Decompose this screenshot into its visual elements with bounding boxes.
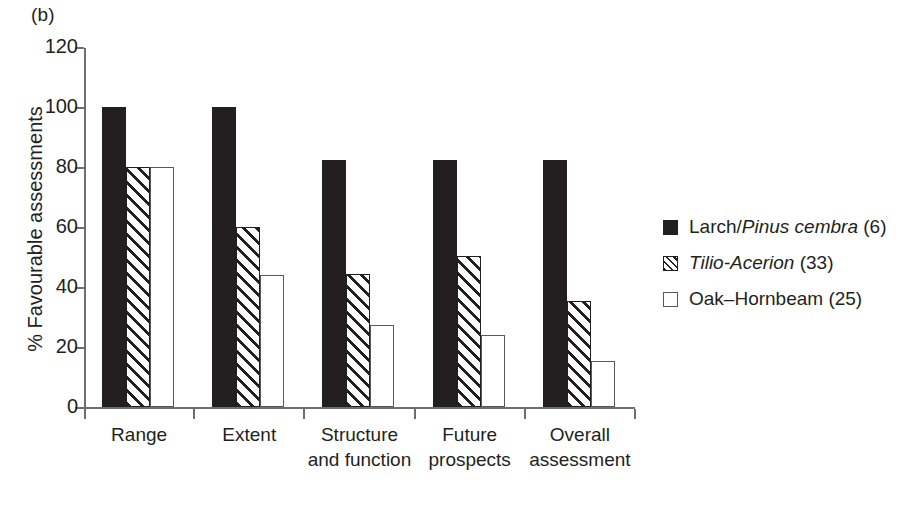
bar bbox=[150, 167, 174, 407]
y-tick-label: 100 bbox=[45, 95, 78, 117]
legend-label: Larch/Pinus cembra (6) bbox=[689, 216, 886, 238]
y-tick-label: 120 bbox=[45, 35, 78, 57]
x-axis-category-line: Overall bbox=[515, 422, 645, 447]
y-tick-label: 20 bbox=[56, 335, 78, 357]
legend-label: Oak–Hornbeam (25) bbox=[689, 288, 862, 310]
bar bbox=[591, 361, 615, 408]
legend-swatch-hatched bbox=[663, 256, 678, 271]
x-tick-mark bbox=[414, 409, 416, 419]
y-axis-title: % Favourable assessments bbox=[24, 19, 46, 439]
bar bbox=[236, 227, 260, 407]
x-tick-mark bbox=[634, 409, 636, 419]
plot-area: 020406080100120 RangeExtentStructureand … bbox=[84, 48, 635, 408]
legend-label-italic: Pinus cembra bbox=[742, 216, 858, 237]
x-axis-category-label: Overallassessment bbox=[515, 422, 645, 472]
x-tick-mark bbox=[303, 409, 305, 419]
bar bbox=[102, 107, 126, 407]
bar bbox=[457, 256, 481, 408]
y-tick-label: 40 bbox=[56, 275, 78, 297]
bar bbox=[322, 160, 346, 408]
bar bbox=[260, 275, 284, 407]
legend-item: Oak–Hornbeam (25) bbox=[663, 281, 903, 317]
y-tick-label: 0 bbox=[67, 395, 78, 417]
bar bbox=[481, 335, 505, 407]
bar bbox=[126, 167, 150, 407]
figure-panel-b: (b) 020406080100120 RangeExtentStructure… bbox=[0, 0, 905, 509]
bar-group bbox=[84, 47, 194, 407]
bar bbox=[433, 160, 457, 408]
legend-swatch-open bbox=[663, 292, 678, 307]
bar-group bbox=[194, 47, 304, 407]
bar bbox=[567, 301, 591, 408]
legend-item: Larch/Pinus cembra (6) bbox=[663, 209, 903, 245]
legend-item: Tilio-Acerion (33) bbox=[663, 245, 903, 281]
legend-swatch-solid bbox=[663, 220, 678, 235]
bar-group bbox=[304, 47, 414, 407]
bar bbox=[212, 107, 236, 407]
x-tick-mark bbox=[84, 409, 86, 419]
y-tick-label: 60 bbox=[56, 215, 78, 237]
bar bbox=[346, 274, 370, 408]
bar bbox=[543, 160, 567, 408]
bar bbox=[370, 325, 394, 408]
legend-label: Tilio-Acerion (33) bbox=[689, 252, 834, 274]
x-tick-mark bbox=[193, 409, 195, 419]
legend-label-italic: Tilio-Acerion bbox=[689, 252, 794, 273]
x-axis-category-line: assessment bbox=[515, 447, 645, 472]
x-tick-mark bbox=[524, 409, 526, 419]
bar-group bbox=[525, 47, 635, 407]
bar-group bbox=[415, 47, 525, 407]
y-tick-label: 80 bbox=[56, 155, 78, 177]
x-axis-line bbox=[84, 407, 635, 409]
legend: Larch/Pinus cembra (6)Tilio-Acerion (33)… bbox=[663, 209, 903, 317]
